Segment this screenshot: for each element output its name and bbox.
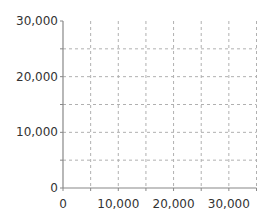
x-tick-label: 20,000 bbox=[153, 197, 195, 211]
y-tick-label: 30,000 bbox=[16, 14, 58, 28]
chart: 010,00020,00030,000 010,00020,00030,000 bbox=[0, 0, 275, 221]
y-tick-label: 0 bbox=[50, 181, 58, 195]
x-tick-label: 10,000 bbox=[97, 197, 139, 211]
x-tick-label: 0 bbox=[59, 197, 67, 211]
x-tick-label: 30,000 bbox=[208, 197, 250, 211]
gridlines bbox=[63, 21, 257, 188]
y-tick-label: 10,000 bbox=[16, 125, 58, 139]
y-axis-ticks: 010,00020,00030,000 bbox=[16, 14, 63, 195]
x-axis-ticks: 010,00020,00030,000 bbox=[59, 188, 256, 211]
y-tick-label: 20,000 bbox=[16, 70, 58, 84]
